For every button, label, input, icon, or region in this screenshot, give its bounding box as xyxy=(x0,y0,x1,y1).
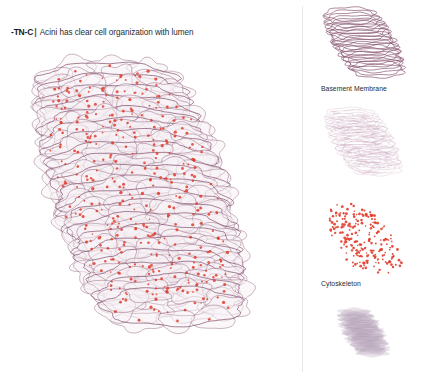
legend-item-nucleus-center[interactable]: Nucleus Center xyxy=(302,200,431,296)
figure-root: -TN-C | Acini has clear cell organizatio… xyxy=(0,0,431,378)
component-legend: Basement Membrane Cytoskeleton Nucleus C… xyxy=(302,0,431,378)
legend-item-cytoskeleton[interactable]: Cytoskeleton xyxy=(302,104,431,196)
legend-item-lumen[interactable]: Lumen xyxy=(302,302,431,376)
main-visualization xyxy=(0,50,300,350)
header-tag: -TN-C xyxy=(11,27,33,37)
cytoskeleton-thumbnail xyxy=(302,104,431,178)
legend-label-basement-membrane: Basement Membrane xyxy=(321,85,387,92)
legend-item-basement-membrane[interactable]: Basement Membrane xyxy=(302,2,431,100)
header-separator: | xyxy=(34,27,37,37)
lumen-thumbnail xyxy=(302,302,431,360)
figure-header: -TN-C | Acini has clear cell organizatio… xyxy=(11,27,194,37)
nucleus-center-thumbnail xyxy=(302,200,431,278)
header-description: Acini has clear cell organization with l… xyxy=(40,28,194,37)
basement-membrane-thumbnail xyxy=(302,2,431,82)
acinus-stack-svg xyxy=(0,50,300,350)
